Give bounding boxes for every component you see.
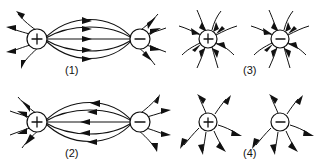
panel-1-field-lines [44, 17, 133, 62]
panel-2-positive-charge [27, 112, 47, 132]
figure-canvas: (1) [0, 0, 319, 168]
panel-3-label: (3) [243, 64, 256, 76]
panel-4-negative-charge-group [252, 94, 314, 155]
panel-3: (3) [179, 10, 309, 76]
panel-2: (2) [10, 94, 171, 159]
panel-2-negative-charge [130, 112, 150, 132]
panel-1-positive-charge [27, 29, 47, 49]
panel-1-label: (1) [65, 64, 78, 76]
panel-1-negative-charge [130, 29, 150, 49]
panel-2-label: (2) [65, 147, 78, 159]
field-line-figure: (1) [0, 0, 319, 168]
panel-4-label: (4) [243, 147, 256, 159]
panel-3-positive-charge-group [179, 10, 237, 68]
panel-4: (4) [180, 94, 314, 159]
panel-2-field-lines [44, 100, 133, 145]
panel-4-positive-charge-group [180, 94, 242, 155]
panel-1: (1) [6, 11, 166, 76]
panel-3-negative-charge-group [251, 10, 309, 68]
